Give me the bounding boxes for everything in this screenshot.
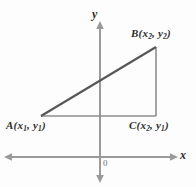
origin-label: 0 <box>103 159 108 168</box>
vertex-label-b-letter: B <box>131 27 139 39</box>
vertex-label-a-letter: A <box>6 119 14 131</box>
vertex-label-b-y-sub: 2 <box>163 32 167 41</box>
x-axis-right-arrowhead <box>170 153 178 161</box>
vertex-label-c: C(x2, y1) <box>129 120 169 131</box>
vertex-label-c-y-sub: 1 <box>161 124 165 133</box>
y-axis-bottom-arrowhead <box>96 175 104 183</box>
vertex-label-c-x-sub: 2 <box>146 124 150 133</box>
vertex-label-b-x-sub: 2 <box>148 32 152 41</box>
x-axis-left-arrowhead <box>4 153 12 161</box>
coordinate-figure: A(x1, y1) B(x2, y2) C(x2, y1) y x 0 <box>0 0 196 187</box>
triangle-hypotenuse-ab <box>41 47 156 116</box>
vertex-label-c-letter: C <box>129 119 137 131</box>
y-axis-top-arrowhead <box>96 21 104 29</box>
vertex-label-b: B(x2, y2) <box>131 28 171 39</box>
y-axis-label: y <box>92 8 97 20</box>
x-axis-label: x <box>180 149 186 161</box>
vertex-label-a-x-sub: 1 <box>23 124 27 133</box>
vertex-label-a-y-sub: 1 <box>38 124 42 133</box>
vertex-label-a: A(x1, y1) <box>6 120 46 131</box>
